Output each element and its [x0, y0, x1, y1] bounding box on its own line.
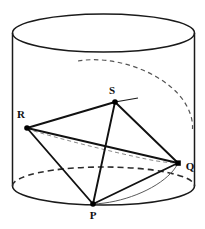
cylinder-helix-diagram: P Q R S: [0, 0, 205, 229]
vertex-label-P: P: [90, 209, 97, 221]
diagram-canvas: P Q R S: [0, 0, 205, 229]
edge-S-P: [93, 102, 115, 204]
vertex-label-R: R: [17, 108, 26, 120]
vertex-marker-P: [90, 201, 96, 207]
helix-tangent-stub-at-S: [115, 98, 138, 102]
vertex-marker-R: [24, 125, 30, 131]
vertex-marker-S: [112, 99, 118, 105]
edge-R-S: [27, 102, 115, 128]
edge-P-Q: [93, 163, 178, 204]
solid-edges-group: [27, 102, 178, 204]
vertex-label-S: S: [109, 84, 115, 96]
vertex-marker-Q: [175, 160, 180, 165]
edge-R-P: [27, 128, 93, 204]
cylinder-top-ellipse: [13, 14, 195, 52]
cylinder-bottom-front-arc: [13, 186, 195, 205]
vertex-label-Q: Q: [186, 160, 195, 172]
helix-top-back-dashed: [78, 60, 193, 129]
